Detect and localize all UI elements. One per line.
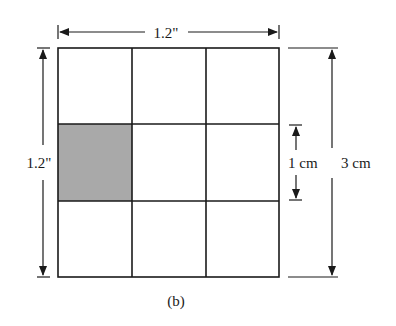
total-dimension-label: 3 cm — [341, 155, 371, 171]
left-dimension-label: 1.2" — [27, 155, 52, 171]
shaded-cell — [58, 124, 132, 201]
figure-caption: (b) — [167, 293, 185, 310]
grid-diagram: 1.2" 1.2" 1 cm 3 cm (b) — [0, 0, 396, 326]
cell-dimension-label: 1 cm — [288, 155, 318, 171]
top-dimension-label: 1.2" — [154, 25, 179, 41]
